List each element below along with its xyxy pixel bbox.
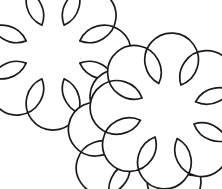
drawing-canvas: Two clouds line drawing xyxy=(0,0,222,189)
cloud-line-art-illustration: Two clouds line drawing xyxy=(0,0,222,189)
